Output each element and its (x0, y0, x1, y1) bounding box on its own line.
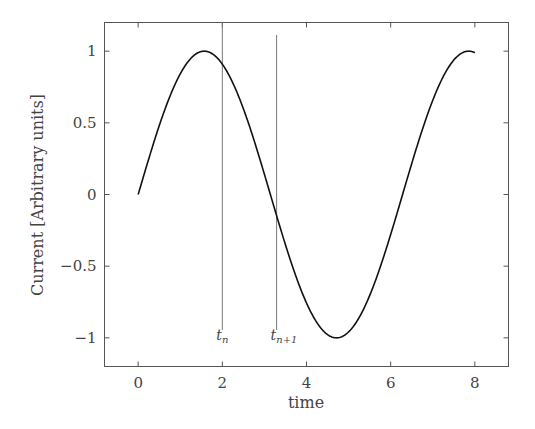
x-axis-label: time (288, 393, 324, 412)
x-tick-label: 4 (302, 374, 312, 392)
y-tick-label: −0.5 (60, 257, 96, 275)
y-axis-label: Current [Arbitrary units] (28, 94, 47, 296)
y-tick-label: 0.5 (73, 114, 97, 132)
x-tick-label: 6 (386, 374, 396, 392)
x-tick-label: 8 (470, 374, 480, 392)
plot-frame (105, 23, 509, 367)
data-curve (138, 51, 475, 338)
axis-ticks (105, 23, 509, 367)
vline-label: tn+1 (271, 327, 298, 345)
x-tick-label: 0 (133, 374, 143, 392)
y-tick-label: 1 (87, 42, 97, 60)
y-tick-label: −1 (74, 329, 96, 347)
y-tick-label: 0 (87, 186, 97, 204)
annotation-lines: tntn+1 (216, 23, 297, 346)
x-tick-label: 2 (218, 374, 228, 392)
chart: 0246810.50−0.5−1 tntn+1 time Current [Ar… (0, 0, 535, 429)
